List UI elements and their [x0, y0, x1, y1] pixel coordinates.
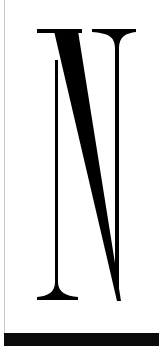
- bottom-black-bar: [4, 333, 159, 346]
- letter-n-graphic: N: [0, 0, 159, 333]
- letter-n-icon: [0, 0, 159, 333]
